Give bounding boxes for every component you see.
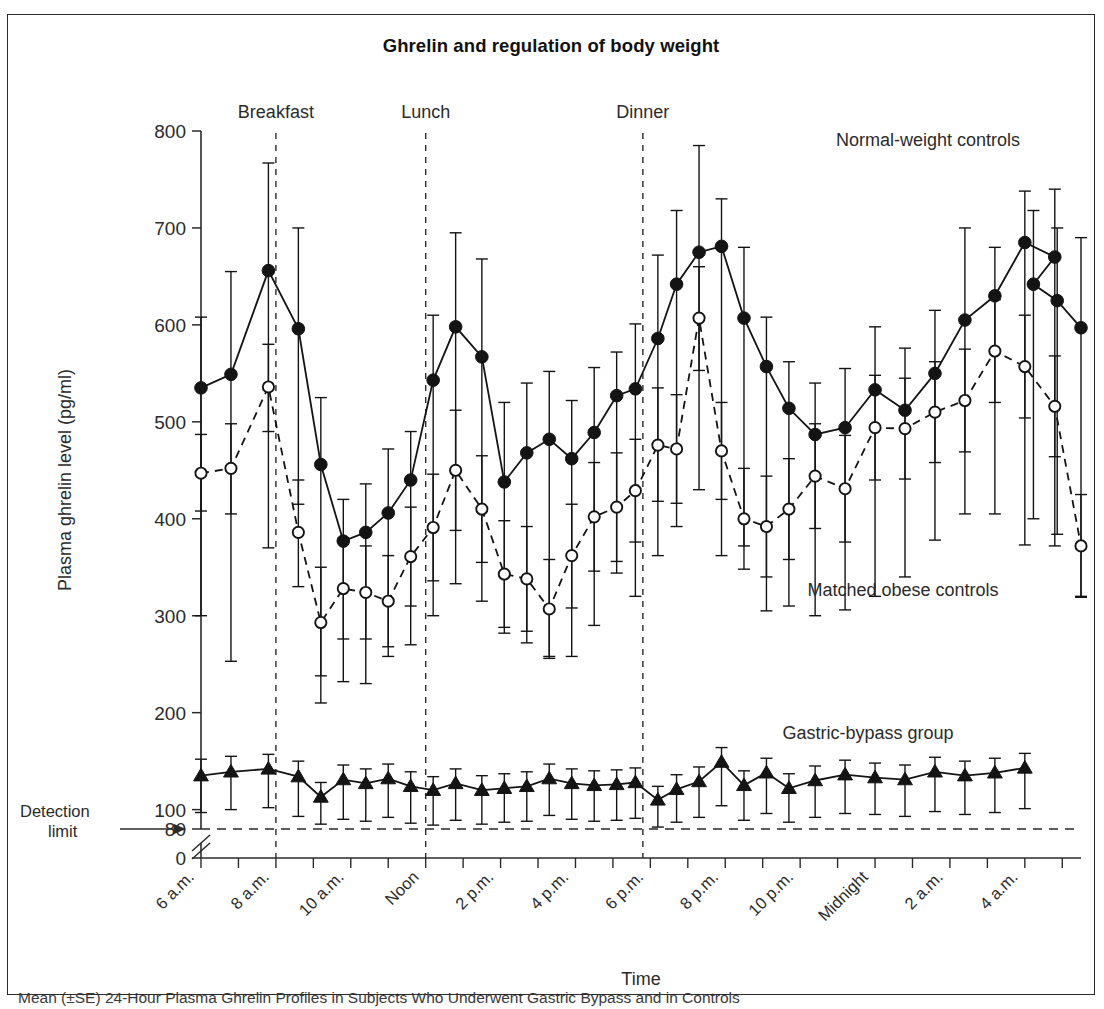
data-point — [783, 402, 796, 415]
data-point — [544, 603, 555, 614]
data-point — [1017, 761, 1032, 774]
data-point — [382, 507, 395, 520]
x-tick-label: 8 p.m. — [676, 867, 721, 912]
svg-text:8 p.m.: 8 p.m. — [676, 867, 721, 912]
svg-text:4 a.m.: 4 a.m. — [976, 867, 1021, 912]
ghrelin-chart: 801002003004005006007008000Detectionlimi… — [8, 15, 1095, 995]
data-point — [839, 483, 850, 494]
svg-text:2 a.m.: 2 a.m. — [901, 867, 946, 912]
svg-text:4 p.m.: 4 p.m. — [526, 867, 571, 912]
data-point — [405, 551, 416, 562]
data-point — [315, 617, 326, 628]
x-tick-label: Noon — [381, 867, 422, 908]
series-label-matched_obese_controls: Matched obese controls — [807, 580, 998, 600]
y-tick-label: 0 — [175, 848, 186, 869]
x-tick-label: 6 p.m. — [601, 867, 646, 912]
data-point — [869, 422, 880, 433]
data-point — [611, 502, 622, 513]
svg-text:6 a.m.: 6 a.m. — [152, 867, 197, 912]
svg-text:10 a.m.: 10 a.m. — [295, 867, 347, 919]
data-point — [589, 511, 600, 522]
data-point — [261, 761, 276, 774]
y-tick-label: 100 — [154, 800, 186, 821]
x-tick-label: 4 a.m. — [976, 867, 1021, 912]
data-point — [1075, 540, 1086, 551]
data-point — [428, 522, 439, 533]
y-tick-label: 400 — [154, 509, 186, 530]
data-point — [383, 596, 394, 607]
data-point — [738, 513, 749, 524]
data-point — [628, 775, 643, 788]
data-point — [693, 313, 704, 324]
svg-text:10 p.m.: 10 p.m. — [745, 867, 797, 919]
data-point — [498, 476, 511, 489]
data-point — [225, 368, 238, 381]
data-point — [476, 351, 489, 364]
data-point — [671, 443, 682, 454]
data-point — [670, 278, 683, 291]
data-point — [1051, 294, 1064, 307]
svg-text:Midnight: Midnight — [814, 867, 871, 924]
data-point — [810, 471, 821, 482]
meal-label: Breakfast — [238, 102, 314, 122]
data-point — [716, 445, 727, 456]
data-point — [450, 465, 461, 476]
x-tick-label: 6 a.m. — [152, 867, 197, 912]
svg-text:8 a.m.: 8 a.m. — [227, 867, 272, 912]
figure-frame: Ghrelin and regulation of body weight 80… — [7, 14, 1095, 995]
data-point — [521, 573, 532, 584]
data-point — [499, 568, 510, 579]
x-tick-label: 10 a.m. — [295, 867, 347, 919]
data-point — [1049, 401, 1060, 412]
data-point — [760, 360, 773, 373]
data-point — [650, 793, 665, 806]
data-point — [899, 423, 910, 434]
data-point — [1048, 251, 1061, 264]
data-point — [225, 463, 236, 474]
data-point — [783, 503, 794, 514]
svg-text:Noon: Noon — [381, 867, 422, 908]
meal-label: Lunch — [401, 102, 450, 122]
x-tick-label: 4 p.m. — [526, 867, 571, 912]
data-point — [195, 468, 206, 479]
x-tick-label: 2 p.m. — [452, 867, 497, 912]
data-point — [381, 771, 396, 784]
data-point — [1019, 236, 1032, 249]
data-point — [714, 755, 729, 768]
data-point — [693, 246, 706, 259]
data-point — [761, 521, 772, 532]
data-point — [449, 321, 462, 334]
data-point — [543, 433, 556, 446]
data-point — [566, 550, 577, 561]
data-point — [292, 322, 305, 335]
data-point — [838, 767, 853, 780]
series-gastric_bypass_group — [194, 748, 1033, 827]
x-axis-title: Time — [621, 969, 660, 989]
y-tick-label: 800 — [154, 121, 186, 142]
data-point — [263, 381, 274, 392]
data-point — [652, 440, 663, 451]
y-tick-label: 200 — [154, 703, 186, 724]
data-point — [959, 395, 970, 406]
data-point — [359, 526, 372, 539]
data-point — [293, 527, 304, 538]
data-point — [652, 332, 665, 345]
y-tick-label: 700 — [154, 218, 186, 239]
detection-limit-label: limit — [48, 822, 78, 840]
data-point — [929, 407, 940, 418]
data-point — [427, 374, 440, 387]
data-point — [715, 240, 728, 253]
data-point — [565, 452, 578, 465]
y-tick-label: 600 — [154, 315, 186, 336]
data-point — [959, 314, 972, 327]
series-label-normal_weight_controls: Normal-weight controls — [836, 130, 1020, 150]
data-point — [629, 383, 642, 396]
detection-limit-label: Detection — [20, 802, 90, 820]
x-tick-label: 2 a.m. — [901, 867, 946, 912]
data-point — [1019, 361, 1030, 372]
series-line — [201, 318, 1081, 622]
data-point — [360, 587, 371, 598]
data-point — [839, 421, 852, 434]
y-tick-label: 300 — [154, 606, 186, 627]
data-point — [338, 583, 349, 594]
